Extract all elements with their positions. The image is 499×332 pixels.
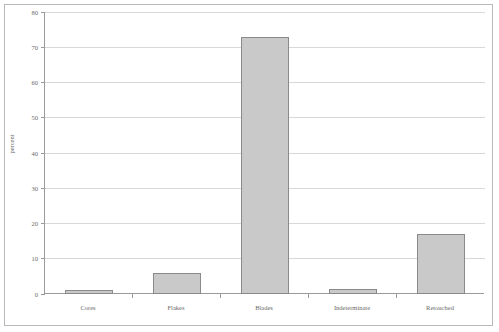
y-tick-label: 0 (35, 291, 38, 298)
y-tick-mark (41, 12, 45, 13)
x-tick-mark (132, 294, 133, 298)
y-tick-mark (41, 117, 45, 118)
y-tick-label: 30 (32, 185, 39, 192)
y-tick-label: 20 (32, 220, 39, 227)
y-tick-label: 10 (32, 255, 39, 262)
y-tick-mark (41, 153, 45, 154)
y-tick-label: 40 (32, 150, 39, 157)
x-tick-label: Cores (44, 303, 132, 312)
bar-chart-figure: 01020304050607080 percent CoresFlakesBla… (0, 0, 499, 332)
y-tick-mark (41, 188, 45, 189)
gridline (45, 12, 485, 13)
x-tick-mark (220, 294, 221, 298)
y-tick-mark (41, 47, 45, 48)
y-tick-label: 80 (32, 9, 39, 16)
bar (153, 273, 201, 294)
bar (65, 290, 113, 294)
x-tick-label: Retouched (396, 303, 484, 312)
x-tick-mark (396, 294, 397, 298)
y-tick-mark (41, 258, 45, 259)
y-axis-tick-labels: 01020304050607080 (0, 12, 38, 294)
x-tick-label: Blades (220, 303, 308, 312)
bar (417, 234, 465, 294)
y-axis-title: percent (8, 124, 16, 164)
bar (241, 37, 289, 294)
y-tick-label: 50 (32, 114, 39, 121)
y-tick-label: 60 (32, 79, 39, 86)
y-tick-mark (41, 223, 45, 224)
x-tick-mark (308, 294, 309, 298)
plot-area (44, 12, 484, 294)
x-tick-label: Flakes (132, 303, 220, 312)
x-tick-label: Indeterminate (308, 303, 396, 312)
y-tick-mark (41, 82, 45, 83)
y-tick-label: 70 (32, 44, 39, 51)
bar (329, 289, 377, 294)
y-tick-mark (41, 294, 45, 295)
